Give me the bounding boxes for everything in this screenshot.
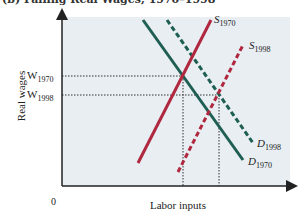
s1970-label: S1970: [214, 14, 236, 28]
w1998-label: W1998: [27, 89, 53, 103]
d1970-label: D1970: [248, 156, 272, 170]
w1970-label: W1970: [27, 70, 53, 84]
s1998-label: S1998: [249, 40, 271, 54]
d1998-label: D1998: [257, 138, 281, 152]
origin-label: 0: [51, 196, 56, 207]
x-axis-label: Labor inputs: [150, 199, 206, 211]
chart-plot: [0, 0, 304, 216]
y-axis-label: Real wages: [15, 61, 27, 131]
